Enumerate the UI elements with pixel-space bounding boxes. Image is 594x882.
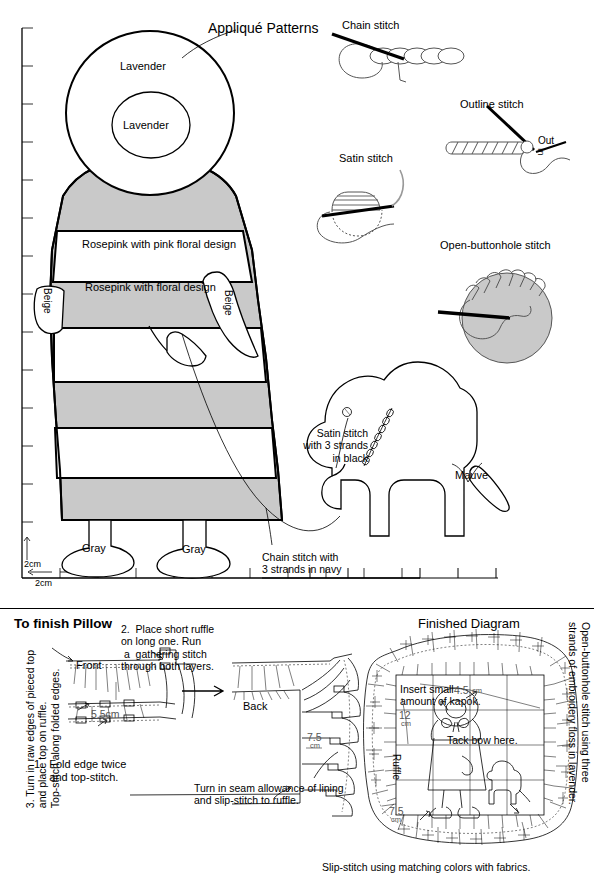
doll-bonnet <box>66 31 234 195</box>
label-dress-upper: Rosepink with pink floral design <box>82 238 236 251</box>
finish-pillow-step-2: 2. Place short ruffle on long one. Run a… <box>121 623 214 673</box>
label-mauve-tail: Mauve <box>455 469 488 482</box>
label-lavender-inner: Lavender <box>123 119 169 132</box>
lining-note: Turn in seam allowance of lining and sli… <box>194 782 344 807</box>
applique-pattern-drawing <box>0 0 594 610</box>
outline-stitch-out-mark: Out <box>538 135 554 147</box>
label-dress-middle: Rosepink with floral design <box>85 281 216 294</box>
finished-dim-ruffle-unit: cm <box>391 816 401 825</box>
process-arrow <box>182 686 223 696</box>
grid-unit-x: 2cm <box>35 578 52 589</box>
satin-stitch-title: Satin stitch <box>339 152 393 165</box>
chain-stitch-diagram <box>332 34 464 82</box>
grid-unit-y: 2cm <box>24 559 41 570</box>
ruffle-label: Ruffle <box>390 754 402 780</box>
finish-pillow-step-3: 3. Turn in raw edges of pieced top and p… <box>24 650 61 808</box>
open-buttonhole-stitch-diagram <box>438 270 552 363</box>
outline-stitch-title: Outline stitch <box>460 98 524 111</box>
label-beige-right: Beige <box>222 290 234 316</box>
front-dimension: 5.5cm <box>91 708 120 720</box>
satin-stitch-diagram <box>317 170 403 243</box>
back-label: Back <box>243 700 267 713</box>
finished-diagram-title: Finished Diagram <box>418 616 520 631</box>
back-dimension-unit: cm <box>310 742 320 751</box>
outline-stitch-in-mark: In <box>535 148 546 156</box>
finish-pillow-step-1: 1. Fold edge twice and top-stitch. <box>34 758 126 784</box>
label-gray-right-shoe: Gray <box>182 543 206 556</box>
chain-stitch-title: Chain stitch <box>342 19 399 32</box>
slip-stitch-note: Slip-stitch using matching colors with f… <box>322 861 530 873</box>
label-beige-left: Beige <box>41 288 53 314</box>
annotation-chain-stitch-navy: Chain stitch with 3 strands in navy <box>262 551 341 576</box>
pattern-sheet: Appliqué Patterns Lavender Lavender Rose… <box>0 0 594 882</box>
finished-dim-left-unit: cm <box>401 720 411 729</box>
page-title: Appliqué Patterns <box>208 20 319 37</box>
label-gray-left-shoe: Gray <box>82 542 106 555</box>
label-lavender-outer: Lavender <box>120 60 166 73</box>
finish-pillow-title: To finish Pillow <box>14 616 112 632</box>
finished-dim-top-unit: cm <box>472 687 482 696</box>
front-label: Front <box>76 659 102 672</box>
finished-dim-top: 4.5 <box>454 684 469 696</box>
open-buttonhole-stitch-title: Open-buttonhole stitch <box>440 239 551 252</box>
tack-bow-note: Tack bow here. <box>447 734 518 746</box>
annotation-satin-stitch-black: Satin stitch with 3 strands in black <box>278 427 368 464</box>
open-buttonhole-note: Open-buttonhole stitch using three stran… <box>567 622 592 805</box>
